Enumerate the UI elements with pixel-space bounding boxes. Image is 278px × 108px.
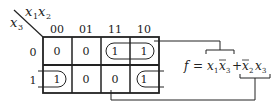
cell-r1-c11: 0	[112, 73, 119, 86]
svg-text:3: 3	[226, 67, 230, 75]
svg-text:10: 10	[137, 23, 151, 36]
svg-text:f: f	[183, 59, 191, 73]
svg-text:x: x	[25, 4, 33, 19]
svg-text:x: x	[242, 59, 249, 73]
svg-text:2: 2	[249, 67, 253, 75]
svg-text:x: x	[207, 59, 214, 73]
svg-text:x: x	[38, 4, 46, 19]
row-labels: 0 1	[30, 46, 37, 87]
cell-r0-c10: 1	[141, 45, 148, 58]
boolean-equation: f = x 1 x 3 + x 2 x 3	[183, 59, 266, 75]
cell-r1-c00: 1	[54, 73, 61, 86]
svg-text:+: +	[232, 59, 242, 73]
svg-text:x: x	[10, 15, 18, 30]
svg-text:00: 00	[50, 23, 64, 36]
cell-r1-c10: 1	[141, 73, 148, 86]
svg-text:1: 1	[30, 74, 37, 87]
cell-r0-c01: 0	[83, 45, 90, 58]
cell-r1-c01: 0	[83, 73, 90, 86]
svg-text:1: 1	[214, 67, 218, 75]
column-labels: 00 01 11 10	[50, 23, 151, 36]
svg-text:11: 11	[108, 23, 122, 36]
connector-group1	[154, 41, 234, 54]
svg-text:=: =	[193, 59, 203, 73]
svg-text:2: 2	[46, 12, 51, 21]
row-variable-label: x 3	[10, 15, 23, 32]
svg-text:3: 3	[18, 23, 23, 32]
cell-r0-c00: 0	[54, 45, 61, 58]
svg-text:x: x	[219, 59, 226, 73]
svg-text:0: 0	[30, 46, 37, 59]
svg-text:3: 3	[262, 67, 266, 75]
karnaugh-map-diagram: x 1 x 2 x 3 00 01 11 10 0 1 0 0 1 1 1 0 …	[0, 0, 278, 108]
svg-text:x: x	[255, 59, 262, 73]
col-variable-label: x 1 x 2	[25, 4, 51, 21]
svg-text:01: 01	[79, 23, 93, 36]
connector-group2	[111, 74, 270, 100]
cell-r0-c11: 1	[112, 45, 119, 58]
